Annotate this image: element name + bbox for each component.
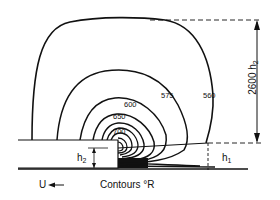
legend-label: Contours °R (100, 180, 155, 190)
total-height-label: 2600 h2 (248, 48, 259, 108)
height-total-var: h (247, 64, 258, 70)
h2-sub: 2 (83, 157, 87, 164)
h1-label: h1 (222, 153, 231, 164)
contour-label-650: 650 (113, 113, 126, 121)
contour-diagram (0, 0, 280, 200)
contour-label-560: 560 (203, 92, 216, 100)
contour-label-700: 700 (113, 128, 126, 136)
height-arrow-up-icon (254, 20, 260, 30)
contour-inner-4 (118, 142, 123, 151)
contour-label-575: 575 (161, 92, 174, 100)
flow-velocity-label: U (39, 180, 46, 190)
height-arrow-down-icon (254, 133, 260, 143)
h1-sub: 1 (228, 157, 232, 164)
contour-label-600: 600 (124, 101, 137, 109)
height-total-value: 2600 (247, 73, 258, 95)
h2-label: h2 (77, 153, 86, 164)
flow-arrow-icon (48, 183, 55, 188)
obstacle-block (18, 140, 118, 168)
height-total-sub: 2 (252, 60, 259, 64)
